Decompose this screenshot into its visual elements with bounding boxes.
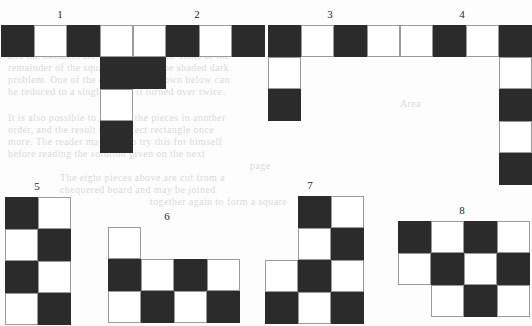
grid-cell-light[interactable] <box>400 25 433 57</box>
grid-cell-light[interactable] <box>431 221 464 253</box>
grid-cell-dark[interactable] <box>268 89 301 121</box>
grid-cell-light[interactable] <box>34 25 67 57</box>
grid-cell-light[interactable] <box>5 229 38 261</box>
grid-cell-dark[interactable] <box>334 25 367 57</box>
grid-cell-empty <box>433 57 466 89</box>
grid-cell-empty <box>367 89 400 121</box>
grid-cell-light[interactable] <box>108 291 141 323</box>
grid-cell-empty <box>265 228 298 260</box>
grid-cell-light[interactable] <box>497 285 530 317</box>
grid-cell-empty <box>334 89 367 121</box>
grid-cell-dark[interactable] <box>166 25 199 57</box>
grid-cell-empty <box>1 121 34 153</box>
grid-cell-dark[interactable] <box>141 291 174 323</box>
grid-cell-light[interactable] <box>265 260 298 292</box>
grid-cell-empty <box>67 121 100 153</box>
grid-cell-light[interactable] <box>199 25 232 57</box>
figure-7-grid <box>265 196 364 324</box>
grid-cell-light[interactable] <box>38 197 71 229</box>
grid-cell-empty <box>367 57 400 89</box>
grid-cell-light[interactable] <box>298 292 331 324</box>
grid-cell-empty <box>433 89 466 121</box>
grid-cell-empty <box>400 121 433 153</box>
grid-cell-light[interactable] <box>38 261 71 293</box>
grid-cell-dark[interactable] <box>431 253 464 285</box>
grid-cell-empty <box>400 153 433 185</box>
grid-cell-dark[interactable] <box>265 292 298 324</box>
grid-cell-dark[interactable] <box>100 121 133 153</box>
grid-cell-empty <box>334 57 367 89</box>
grid-cell-light[interactable] <box>499 121 532 153</box>
figure-6-label: 6 <box>157 210 177 222</box>
figure-4-grid <box>400 25 532 185</box>
grid-cell-dark[interactable] <box>232 25 265 57</box>
grid-cell-light[interactable] <box>499 57 532 89</box>
grid-cell-empty <box>466 121 499 153</box>
grid-cell-dark[interactable] <box>499 25 532 57</box>
grid-cell-dark[interactable] <box>108 259 141 291</box>
grid-cell-dark[interactable] <box>5 197 38 229</box>
grid-cell-empty <box>265 196 298 228</box>
grid-cell-light[interactable] <box>331 260 364 292</box>
grid-cell-dark[interactable] <box>497 253 530 285</box>
grid-cell-light[interactable] <box>331 196 364 228</box>
grid-cell-dark[interactable] <box>398 221 431 253</box>
grid-cell-dark[interactable] <box>298 196 331 228</box>
grid-cell-empty <box>67 89 100 121</box>
grid-cell-light[interactable] <box>108 227 141 259</box>
grid-cell-empty <box>1 89 34 121</box>
grid-cell-light[interactable] <box>464 253 497 285</box>
grid-cell-dark[interactable] <box>5 261 38 293</box>
grid-cell-empty <box>199 57 232 89</box>
figure-8-grid <box>398 221 530 317</box>
grid-cell-light[interactable] <box>174 291 207 323</box>
grid-cell-light[interactable] <box>466 25 499 57</box>
grid-cell-light[interactable] <box>100 25 133 57</box>
grid-cell-light[interactable] <box>133 25 166 57</box>
grid-cell-empty <box>400 57 433 89</box>
grid-cell-empty <box>400 89 433 121</box>
figure-2-label: 2 <box>187 8 207 20</box>
grid-cell-dark[interactable] <box>499 153 532 185</box>
grid-cell-dark[interactable] <box>464 285 497 317</box>
figure-5-grid <box>5 197 71 325</box>
grid-cell-light[interactable] <box>207 259 240 291</box>
figure-7-label: 7 <box>300 179 320 191</box>
grid-cell-empty <box>466 89 499 121</box>
grid-cell-light[interactable] <box>367 25 400 57</box>
grid-cell-light[interactable] <box>398 253 431 285</box>
figure-4-label: 4 <box>452 8 472 20</box>
grid-cell-empty <box>301 57 334 89</box>
grid-cell-empty <box>207 227 240 259</box>
grid-cell-light[interactable] <box>100 89 133 121</box>
grid-cell-dark[interactable] <box>38 229 71 261</box>
grid-cell-dark[interactable] <box>331 228 364 260</box>
grid-cell-dark[interactable] <box>268 25 301 57</box>
grid-cell-dark[interactable] <box>298 260 331 292</box>
figure-3-grid <box>268 25 400 121</box>
grid-cell-light[interactable] <box>298 228 331 260</box>
grid-cell-light[interactable] <box>5 293 38 325</box>
grid-cell-dark[interactable] <box>499 89 532 121</box>
grid-cell-light[interactable] <box>141 259 174 291</box>
figure-2-grid <box>133 25 265 89</box>
grid-cell-dark[interactable] <box>133 57 166 89</box>
grid-cell-dark[interactable] <box>1 25 34 57</box>
grid-cell-dark[interactable] <box>433 25 466 57</box>
grid-cell-dark[interactable] <box>100 57 133 89</box>
grid-cell-light[interactable] <box>268 57 301 89</box>
grid-cell-empty <box>166 57 199 89</box>
grid-cell-dark[interactable] <box>207 291 240 323</box>
grid-cell-empty <box>232 57 265 89</box>
grid-cell-dark[interactable] <box>464 221 497 253</box>
grid-cell-empty <box>34 121 67 153</box>
grid-cell-dark[interactable] <box>331 292 364 324</box>
grid-cell-light[interactable] <box>301 25 334 57</box>
grid-cell-empty <box>67 57 100 89</box>
grid-cell-empty <box>34 57 67 89</box>
grid-cell-dark[interactable] <box>67 25 100 57</box>
grid-cell-dark[interactable] <box>174 259 207 291</box>
grid-cell-light[interactable] <box>497 221 530 253</box>
grid-cell-light[interactable] <box>431 285 464 317</box>
grid-cell-dark[interactable] <box>38 293 71 325</box>
